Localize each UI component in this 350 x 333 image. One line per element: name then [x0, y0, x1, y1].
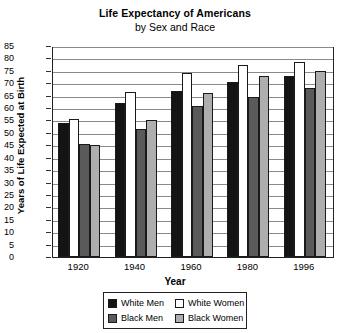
y-axis-tick	[46, 232, 51, 233]
bar	[315, 71, 326, 257]
x-axis-tick-label: 1980	[217, 261, 277, 272]
bar-group	[227, 48, 269, 257]
y-axis-tick	[46, 220, 51, 221]
y-axis-tick-label: 30	[0, 179, 14, 188]
bar	[146, 120, 157, 257]
plot-area	[52, 47, 334, 258]
y-axis-tick-label: 5	[0, 241, 14, 250]
y-axis-tick	[46, 58, 51, 59]
y-axis-tick	[46, 170, 51, 171]
bar-group	[58, 48, 100, 257]
bar	[90, 145, 101, 257]
legend-swatch-white-men	[108, 299, 117, 308]
y-axis-tick-label: 40	[0, 154, 14, 163]
bar	[136, 129, 147, 257]
y-axis-tick-label: 80	[0, 54, 14, 63]
y-axis-tick	[46, 133, 51, 134]
bar	[182, 73, 193, 257]
y-axis-tick	[46, 195, 51, 196]
bar	[79, 144, 90, 257]
y-axis-tick	[46, 207, 51, 208]
bar	[305, 88, 316, 257]
y-axis-tick	[46, 46, 51, 47]
y-axis-tick	[46, 108, 51, 109]
bar	[58, 123, 69, 257]
legend-item-black-men: Black Men	[108, 314, 175, 323]
bar	[294, 62, 305, 257]
y-axis-tick-label: 65	[0, 92, 14, 101]
legend-label-white-men: White Men	[121, 299, 164, 308]
bar-group	[284, 48, 326, 257]
bar	[115, 103, 126, 257]
bar	[171, 91, 182, 257]
y-axis-tick	[46, 83, 51, 84]
bar	[284, 76, 295, 257]
legend-label-black-men: Black Men	[121, 314, 163, 323]
chart-title: Life Expectancy of Americans	[0, 7, 350, 19]
y-axis-tick-label: 10	[0, 228, 14, 237]
bar	[248, 97, 259, 257]
life-expectancy-chart: Life Expectancy of Americans by Sex and …	[0, 0, 350, 333]
y-axis-tick-label: 70	[0, 79, 14, 88]
legend-swatch-white-women	[175, 299, 184, 308]
bar	[238, 65, 249, 257]
bar-group	[171, 48, 213, 257]
legend-row: White Men White Women	[108, 296, 242, 311]
bar	[69, 119, 80, 257]
x-axis-tick-label: 1996	[274, 261, 334, 272]
y-axis-tick	[46, 257, 51, 258]
x-axis-tick-label: 1960	[161, 261, 221, 272]
y-axis-tick-label: 85	[0, 42, 14, 51]
bar	[192, 106, 203, 257]
legend-label-white-women: White Women	[188, 299, 244, 308]
y-axis-title: Years of Life Expected at Birth	[15, 36, 26, 256]
y-axis-tick	[46, 245, 51, 246]
legend-label-black-women: Black Women	[188, 314, 243, 323]
y-axis-tick-label: 20	[0, 203, 14, 212]
y-axis-tick	[46, 120, 51, 121]
x-axis-tick-label: 1920	[48, 261, 108, 272]
legend-row: Black Men Black Women	[108, 311, 242, 326]
y-axis-tick	[46, 145, 51, 146]
y-axis-tick-label: 45	[0, 141, 14, 150]
x-axis-title: Year	[0, 276, 350, 287]
y-axis-tick-label: 75	[0, 67, 14, 76]
y-axis-tick-label: 35	[0, 166, 14, 175]
legend-swatch-black-men	[108, 314, 117, 323]
y-axis-tick	[46, 96, 51, 97]
legend-item-black-women: Black Women	[175, 314, 242, 323]
y-axis-tick-label: 60	[0, 104, 14, 113]
bar	[227, 82, 238, 257]
legend-swatch-black-women	[175, 314, 184, 323]
chart-subtitle: by Sex and Race	[0, 21, 350, 33]
bar	[259, 76, 270, 257]
y-axis-tick	[46, 71, 51, 72]
legend-item-white-men: White Men	[108, 299, 175, 308]
legend-item-white-women: White Women	[175, 299, 242, 308]
y-axis-tick-label: 25	[0, 191, 14, 200]
bar-group	[115, 48, 157, 257]
y-axis-tick	[46, 158, 51, 159]
bar	[125, 92, 136, 257]
y-axis-tick-label: 0	[0, 253, 14, 262]
chart-legend: White Men White Women Black Men Black Wo…	[103, 292, 247, 329]
y-axis-tick	[46, 183, 51, 184]
y-axis-tick-label: 15	[0, 216, 14, 225]
bar-series-container	[53, 48, 333, 257]
x-axis-tick-label: 1940	[105, 261, 165, 272]
y-axis-tick-label: 50	[0, 129, 14, 138]
bar	[203, 93, 214, 257]
y-axis-tick-label: 55	[0, 116, 14, 125]
